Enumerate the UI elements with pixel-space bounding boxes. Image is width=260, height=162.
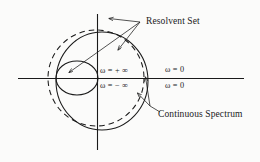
omega-minus-infinity-label: ω = − ∞	[100, 82, 128, 90]
omega-zero-bottom-label: ω = 0	[165, 82, 184, 90]
omega-zero-top-label: ω = 0	[165, 66, 184, 74]
resolvent-leader-upper-left	[109, 19, 140, 23]
omega-plus-infinity-label: ω = + ∞	[100, 67, 128, 75]
continuous-spectrum-label: Continuous Spectrum	[158, 110, 243, 120]
resolvent-leader-inner-circle	[69, 22, 140, 73]
spectrum-diagram-figure: Resolvent Set Continuous Spectrum ω = + …	[0, 0, 260, 162]
diagram-canvas	[0, 0, 260, 162]
resolvent-set-label: Resolvent Set	[146, 17, 200, 27]
